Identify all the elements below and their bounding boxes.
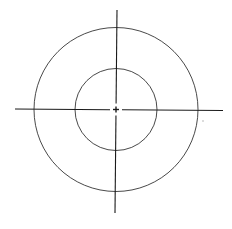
horizontal-axis-left — [15, 109, 110, 110]
crosshair-diagram — [0, 0, 232, 229]
axes-group — [15, 10, 223, 213]
horizontal-axis-right — [122, 110, 223, 111]
center-mark — [113, 107, 119, 113]
vertical-axis-top — [116, 10, 117, 104]
vertical-axis-bottom — [115, 116, 116, 214]
speck-dot — [202, 120, 204, 122]
artifacts-group — [202, 120, 204, 122]
